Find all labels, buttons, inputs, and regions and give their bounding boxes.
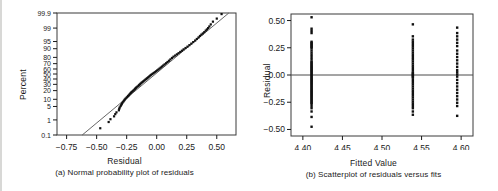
figure-container: −0.75−0.50−0.250.000.250.500.11510203040… (0, 0, 498, 191)
panel-b-data-point (456, 69, 458, 71)
panel-b-data-point (412, 60, 414, 62)
panel-b-data-point (456, 79, 458, 81)
panel-a-data-point (115, 111, 117, 113)
panel-a-data-point (212, 21, 214, 23)
panel-a-y-tick-label: 95 (43, 38, 51, 45)
panel-b-data-point (412, 98, 414, 100)
panel-b-data-point (310, 32, 312, 34)
panel-b-data-point (456, 35, 458, 37)
panel-b-data-point (412, 105, 414, 107)
panel-a-y-tick-label: 20 (43, 87, 51, 94)
panel-a-data-point (220, 13, 222, 15)
panel-a-y-tick-label: 0.1 (41, 132, 51, 139)
panel-a-y-tick-label: 10 (43, 96, 51, 103)
panel-b-data-point (412, 85, 414, 87)
panel-a-plot-frame (57, 13, 236, 135)
panel-b-data-point (310, 30, 312, 32)
panel-b-data-point (310, 16, 312, 18)
panel-b-x-tick-label: 4.60 (453, 143, 470, 150)
panel-a-y-axis-title: Percent (18, 69, 28, 100)
panel-b-data-point (412, 47, 414, 49)
panel-a-y-tick-label: 99 (43, 25, 51, 32)
panel-b-data-point (412, 114, 414, 116)
panel-a-y-tick-label: 5 (47, 103, 51, 110)
panel-b-data-point (412, 94, 414, 96)
panel-b-data-point (412, 23, 414, 25)
panel-b-data-point (310, 116, 312, 118)
panel-a-x-tick-label: −0.50 (86, 142, 108, 150)
panel-b-data-point (456, 89, 458, 91)
panel-b-data-point (456, 115, 458, 117)
panel-a-y-tick-label: 80 (43, 54, 51, 61)
panel-b-data-point (456, 32, 458, 34)
panel-b-data-point (412, 62, 414, 64)
panel-b-data-point (412, 51, 414, 53)
panel-b-data-point (412, 81, 414, 83)
panel-b-data-point (412, 45, 414, 47)
panel-b-data-point (310, 49, 312, 51)
panel-b-data-point (310, 107, 312, 109)
panel-a-caption: (a) Normal probability plot of residuals (0, 168, 249, 177)
panel-b-data-point (456, 42, 458, 44)
panel-b-data-point (412, 92, 414, 94)
panel-b-data-point (456, 102, 458, 104)
panel-b-data-point (456, 66, 458, 68)
panel-a-y-tick-label: 99.9 (37, 10, 51, 17)
panel-a-data-point (109, 118, 111, 120)
panel-b-data-points (310, 16, 458, 128)
panel-a-y-tick-label: 90 (43, 45, 51, 52)
panel-a-x-tick-label: −0.75 (56, 142, 78, 150)
panel-b-y-tick-label: 0.25 (268, 43, 285, 53)
panel-b-data-point (310, 51, 312, 53)
panel-b-data-point (412, 58, 414, 60)
panel-b-data-point (412, 43, 414, 45)
panel-b-data-point (412, 69, 414, 71)
panel-a-x-tick-label: −0.25 (116, 142, 138, 150)
panel-b-x-tick-label: 4.45 (334, 143, 351, 150)
panel-b-data-point (456, 95, 458, 97)
panel-b-y-axis-title: Residual (262, 63, 272, 98)
panel-b-data-point (412, 65, 414, 67)
panel-b-data-point (456, 56, 458, 58)
panel-a-y-tick-label: 70 (43, 60, 51, 67)
panel-b-y-tick-label: −0.50 (263, 124, 285, 134)
panel-a-data-point (188, 44, 190, 46)
panel-b-data-point (310, 103, 312, 105)
panel-a-data-point (210, 23, 212, 25)
panel-a-data-point (216, 17, 218, 19)
panel-b-data-point (412, 103, 414, 105)
panel-b-data-point (456, 75, 458, 77)
panel-b-data-point (412, 87, 414, 89)
residuals-vs-fits-svg: 4.404.454.504.554.60−0.50−0.250.000.250.… (249, 0, 498, 150)
panel-b-x-axis-title: Fitted Value (249, 158, 498, 168)
panel-b-data-point (456, 38, 458, 40)
panel-b-data-point (412, 90, 414, 92)
panel-b-data-point (412, 56, 414, 58)
panel-b-data-point (456, 45, 458, 47)
panel-b-data-point (456, 62, 458, 64)
panel-b-data-point (456, 71, 458, 73)
panel-b-data-point (412, 107, 414, 109)
panel-b-data-point (412, 110, 414, 112)
panel-a-x-tick-label: 0.00 (148, 142, 165, 150)
panel-b-data-point (412, 79, 414, 81)
panel-a-x-axis-title: Residual (0, 156, 249, 166)
panel-b-x-tick-label: 4.40 (295, 143, 312, 150)
panel-b-data-point (412, 41, 414, 43)
panel-a-data-point (113, 115, 115, 117)
panel-b-data-point (456, 26, 458, 28)
panel-b-data-point (456, 49, 458, 51)
panel-b-data-point (456, 73, 458, 75)
panel-b-data-point (412, 83, 414, 85)
panel-residuals-vs-fits: 4.404.454.504.554.60−0.50−0.250.000.250.… (249, 0, 498, 191)
panel-b-data-point (456, 59, 458, 61)
panel-a-data-point (190, 43, 192, 45)
panel-b-data-point (412, 35, 414, 37)
panel-b-data-point (456, 98, 458, 100)
panel-b-data-point (310, 54, 312, 56)
panel-b-data-point (456, 82, 458, 84)
panel-b-data-point (456, 92, 458, 94)
panel-a-data-point (208, 25, 210, 27)
panel-b-data-point (310, 56, 312, 58)
panel-b-y-tick-label: 0.50 (268, 16, 285, 26)
